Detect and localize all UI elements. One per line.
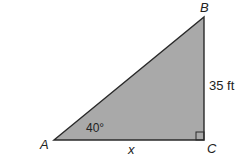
triangle-abc [54, 17, 204, 140]
triangle-figure [0, 0, 241, 165]
side-ac-label: x [128, 143, 135, 156]
vertex-label-a: A [40, 138, 49, 151]
angle-a-label: 40° [86, 122, 104, 134]
side-bc-label: 35 ft [209, 79, 234, 92]
vertex-label-c: C [207, 142, 216, 155]
vertex-label-b: B [200, 1, 209, 14]
